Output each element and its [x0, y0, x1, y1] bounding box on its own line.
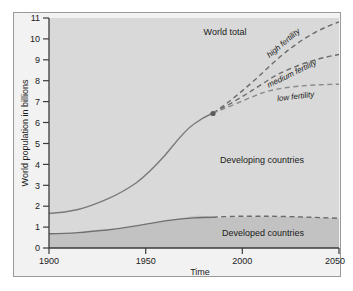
label-developed-countries: Developed countries: [222, 228, 305, 238]
x-tick-label-2050: 2050: [325, 256, 345, 266]
y-axis-tick-labels: 0 1 2 3 4 5 6 7 8 9 10 11: [30, 13, 40, 253]
label-world-total: World total: [204, 27, 247, 37]
y-tick-label-5: 5: [35, 139, 40, 149]
y-axis-ticks: [43, 18, 49, 248]
x-axis-title: Time: [190, 267, 210, 277]
y-tick-label-4: 4: [35, 160, 40, 170]
x-tick-label-1900: 1900: [39, 256, 59, 266]
y-tick-label-10: 10: [30, 34, 40, 44]
x-tick-label-1950: 1950: [136, 256, 156, 266]
x-axis-tick-labels: 1900 1950 2000 2050: [39, 256, 345, 266]
y-tick-label-9: 9: [35, 55, 40, 65]
branch-point-marker: [210, 111, 215, 116]
x-tick-label-2000: 2000: [232, 256, 252, 266]
y-tick-label-11: 11: [31, 13, 40, 23]
x-axis-ticks: [49, 248, 339, 254]
y-tick-label-1: 1: [35, 222, 40, 232]
y-tick-label-2: 2: [35, 201, 40, 211]
plot-area-background: [49, 18, 339, 248]
label-developing-countries: Developing countries: [220, 155, 305, 165]
y-tick-label-6: 6: [35, 118, 40, 128]
y-tick-label-0: 0: [35, 243, 40, 253]
y-axis-title: World population in billions: [20, 79, 30, 186]
y-tick-label-3: 3: [35, 181, 40, 191]
y-tick-label-8: 8: [35, 76, 40, 86]
population-projection-chart: 0 1 2 3 4 5 6 7 8 9 10 11 1900 1950 2000…: [0, 0, 353, 291]
figure-container: 0 1 2 3 4 5 6 7 8 9 10 11 1900 1950 2000…: [0, 0, 353, 291]
y-tick-label-7: 7: [35, 97, 40, 107]
